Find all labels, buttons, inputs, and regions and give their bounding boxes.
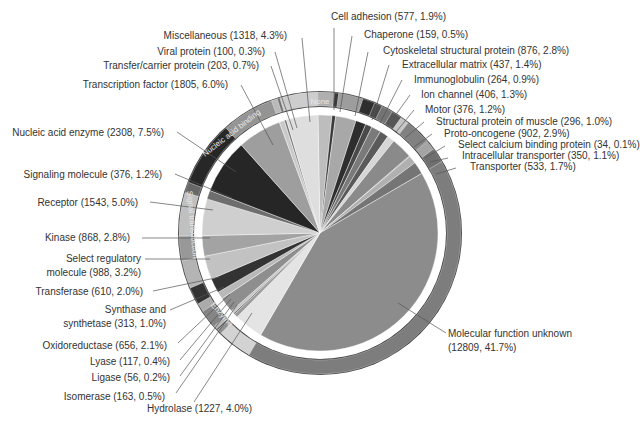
ring-label: None [310, 97, 330, 106]
slice-label: Select calcium binding protein (34, 0.1%… [458, 139, 640, 150]
slice-label: Transferase (610, 2.0%) [36, 286, 143, 297]
slice-label: Proto-oncogene (902, 2.9%) [444, 128, 570, 139]
pie-slices [202, 115, 438, 351]
slice-label: Cell adhesion (577, 1.9%) [331, 11, 446, 22]
slice-label: Oxidoreductase (656, 2.1%) [42, 340, 167, 351]
slice-label: molecule (988, 3.2%) [47, 267, 142, 278]
slice-label: Nucleic acid enzyme (2308, 7.5%) [12, 127, 164, 138]
slice-label: Ligase (56, 0.2%) [92, 372, 170, 383]
slice-label: Transfer/carrier protein (203, 0.7%) [103, 60, 259, 71]
slice-label: Select regulatory [66, 253, 141, 264]
slice-label: Synthase and [105, 304, 166, 315]
slice-label: Ion channel (406, 1.3%) [421, 89, 527, 100]
slice-label: Transporter (533, 1.7%) [470, 161, 576, 172]
slice-label: Extracellular matrix (437, 1.4%) [402, 59, 542, 70]
slice-label: Signaling molecule (376, 1.2%) [24, 169, 162, 180]
slice-label: Viral protein (100, 0.3%) [157, 46, 265, 57]
slice-label: Motor (376, 1.2%) [425, 104, 505, 115]
slice-label: Hydrolase (1227, 4.0%) [147, 403, 252, 414]
slice-label: synthetase (313, 1.0%) [63, 318, 166, 329]
slice-label: Lyase (117, 0.4%) [90, 356, 170, 367]
slice-label: (12809, 41.7%) [448, 342, 516, 353]
slice-label: Chaperone (159, 0.5%) [364, 29, 468, 40]
slice-label: Molecular function unknown [448, 328, 572, 339]
slice-label: Immunoglobulin (264, 0.9%) [414, 74, 539, 85]
slice-label: Kinase (868, 2.8%) [45, 232, 130, 243]
slice-label: Intracellular transporter (350, 1.1%) [462, 150, 619, 161]
slice-label: Cytoskeletal structural protein (876, 2.… [383, 45, 569, 56]
slice-label: Structural protein of muscle (296, 1.0%) [436, 116, 612, 127]
slice-label: Receptor (1543, 5.0%) [37, 197, 138, 208]
slice-label: Transcription factor (1805, 6.0%) [83, 79, 228, 90]
slice-label: Isomerase (163, 0.5%) [64, 391, 165, 402]
slice-label: Miscellaneous (1318, 4.3%) [164, 30, 287, 41]
pie-chart: Cell adhesion (577, 1.9%)Chaperone (159,… [0, 0, 640, 431]
